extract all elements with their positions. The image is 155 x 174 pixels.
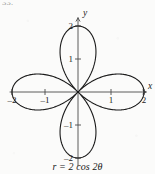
figure-caption: r = 2 cos 2θ (0, 161, 155, 172)
x-tick-label: 2 (142, 95, 147, 105)
x-axis-label: x (147, 81, 153, 91)
x-tick-label: –2 (7, 95, 17, 105)
x-tick-label: 1 (109, 95, 114, 105)
x-tick-label: –1 (40, 95, 50, 105)
y-axis-label: y (82, 8, 88, 18)
polar-plot: –2–112–2–112 x y (0, 0, 155, 174)
y-tick-label: 2 (69, 21, 74, 31)
polar-figure: 33. –2–112–2–112 x y r = 2 cos 2θ (0, 0, 155, 174)
y-tick-label: 1 (69, 54, 74, 64)
y-tick-label: –1 (63, 120, 73, 130)
